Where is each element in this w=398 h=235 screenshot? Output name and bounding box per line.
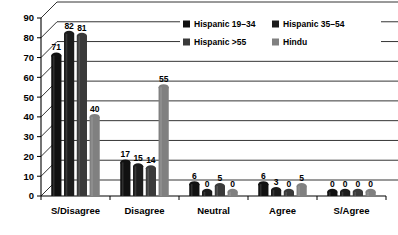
bar-disagree-series-3 <box>159 84 169 196</box>
bar-body <box>120 162 130 196</box>
bar-agree-series-1 <box>271 187 281 196</box>
bar-value-label: 40 <box>90 104 100 114</box>
bar-neutral-series-0 <box>189 181 199 196</box>
bar-neutral-series-1 <box>202 189 212 196</box>
legend-label-1: Hispanic 35–54 <box>283 19 345 29</box>
bar-value-label: 0 <box>230 179 235 189</box>
bar-body <box>90 117 100 196</box>
bar-s-agree-series-0 <box>327 189 337 196</box>
y-tick-label-10: 10 <box>23 171 34 182</box>
bar-value-label: 81 <box>77 23 87 33</box>
bar-body <box>146 168 156 196</box>
bar-agree-series-3 <box>297 183 307 196</box>
bar-cap <box>284 189 294 195</box>
bar-disagree-series-2 <box>146 165 156 196</box>
bar-highlight <box>260 184 262 196</box>
y-tick-label-60: 60 <box>23 72 34 83</box>
bar-s-agree-series-3 <box>366 189 376 196</box>
bar-body <box>64 34 74 196</box>
bar-value-label: 6 <box>261 171 266 181</box>
bar-highlight <box>66 34 68 196</box>
bar-cap <box>258 181 268 187</box>
bar-highlight <box>298 186 300 196</box>
bar-value-label: 5 <box>299 173 304 183</box>
bar-cap <box>189 181 199 187</box>
legend-label-3: Hindu <box>283 37 307 47</box>
bar-agree-series-2 <box>284 189 294 196</box>
legend-swatch-3 <box>272 39 279 46</box>
legend-label-2: Hispanic >55 <box>194 37 246 47</box>
bar-value-label: 0 <box>205 179 210 189</box>
x-category-label-4: S/Agree <box>334 205 370 216</box>
legend-swatch-0 <box>183 21 190 28</box>
bar-value-label: 17 <box>121 149 131 159</box>
bar-highlight <box>191 184 193 196</box>
bar-highlight <box>273 190 275 196</box>
bar-value-label: 0 <box>287 179 292 189</box>
legend-swatch-1 <box>272 21 279 28</box>
y-tick-label-40: 40 <box>23 111 34 122</box>
y-tick-label-30: 30 <box>23 131 34 142</box>
bar-cap <box>77 33 87 39</box>
bar-highlight <box>354 192 356 196</box>
bar-cap <box>297 183 307 189</box>
bar-value-label: 71 <box>52 42 62 52</box>
bar-cap <box>120 159 130 165</box>
y-tick-label-90: 90 <box>23 12 34 23</box>
gridline-depth-80 <box>41 22 57 38</box>
bar-highlight <box>216 186 218 196</box>
bar-highlight <box>122 162 124 196</box>
bar-highlight <box>367 192 369 196</box>
bar-value-label: 14 <box>146 155 156 165</box>
bar-value-label: 0 <box>343 179 348 189</box>
bar-cap <box>271 187 281 193</box>
bar-cap <box>146 165 156 171</box>
bar-highlight <box>91 117 93 196</box>
bar-agree-series-0 <box>258 181 268 196</box>
y-tick-label-0: 0 <box>29 190 34 201</box>
bar-s-disagree-series-1 <box>64 31 74 196</box>
y-tick-label-80: 80 <box>23 32 34 43</box>
bar-cap <box>90 114 100 120</box>
bar-body <box>159 87 169 196</box>
bar-value-label: 0 <box>330 179 335 189</box>
bar-value-label: 6 <box>192 171 197 181</box>
bar-cap <box>202 189 212 195</box>
bar-cap <box>51 53 61 59</box>
bar-disagree-series-0 <box>120 159 130 196</box>
chart-canvas: 0102030405060708090718281401715145560506… <box>0 0 398 235</box>
bar-highlight <box>285 192 287 196</box>
bar-value-label: 82 <box>64 21 74 31</box>
bar-value-label: 5 <box>218 173 223 183</box>
bar-cap <box>366 189 376 195</box>
bar-s-agree-series-2 <box>353 189 363 196</box>
bar-cap <box>215 183 225 189</box>
bar-disagree-series-1 <box>133 163 143 196</box>
y-tick-label-50: 50 <box>23 92 34 103</box>
bar-neutral-series-2 <box>215 183 225 196</box>
legend-swatch-2 <box>183 39 190 46</box>
bar-value-label: 55 <box>159 74 169 84</box>
bar-value-label: 0 <box>368 179 373 189</box>
bar-highlight <box>78 36 80 196</box>
bar-highlight <box>342 192 344 196</box>
y-tick-label-20: 20 <box>23 151 34 162</box>
bar-cap <box>133 163 143 169</box>
bar-body <box>133 166 143 196</box>
bar-cap <box>327 189 337 195</box>
bar-body <box>51 56 61 196</box>
legend-label-0: Hispanic 19–34 <box>194 19 256 29</box>
x-category-label-1: Disagree <box>124 205 164 216</box>
x-category-label-2: Neutral <box>197 205 230 216</box>
bar-cap <box>353 189 363 195</box>
gridline-depth-90 <box>41 2 57 18</box>
bar-s-disagree-series-0 <box>51 53 61 196</box>
bar-s-disagree-series-3 <box>90 114 100 196</box>
bar-cap <box>228 189 238 195</box>
bar-cap <box>340 189 350 195</box>
y-tick-label-70: 70 <box>23 52 34 63</box>
bar-highlight <box>135 166 137 196</box>
bar-value-label: 3 <box>274 177 279 187</box>
bar-chart: 0102030405060708090718281401715145560506… <box>0 0 398 235</box>
x-category-label-0: S/Disagree <box>51 205 100 216</box>
